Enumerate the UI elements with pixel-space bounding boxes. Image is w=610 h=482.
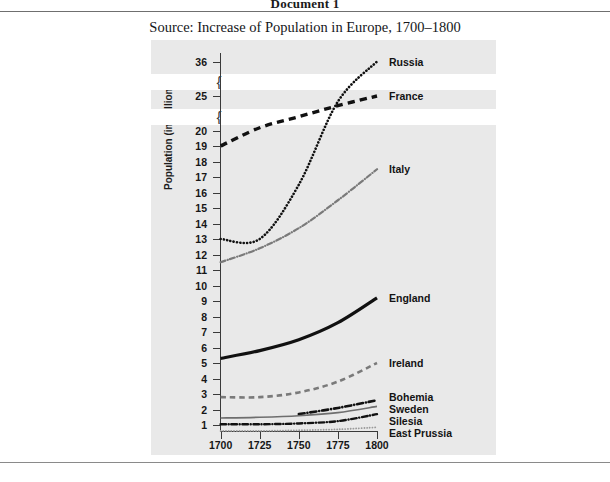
series-label-east-prussia: East Prussia	[389, 428, 452, 439]
series-line-sweden	[221, 406, 377, 418]
chart-lines	[151, 40, 496, 455]
series-line-england	[221, 298, 377, 358]
series-label-ireland: Ireland	[389, 358, 423, 369]
series-label-silesia: Silesia	[389, 416, 422, 427]
series-label-italy: Italy	[389, 164, 410, 175]
series-label-russia: Russia	[389, 57, 423, 68]
bottom-divider	[0, 462, 610, 463]
series-line-ireland	[221, 363, 377, 397]
series-label-sweden: Sweden	[389, 404, 429, 415]
series-line-east-prussia	[221, 427, 377, 431]
series-label-bohemia: Bohemia	[389, 392, 433, 403]
source-caption: Source: Increase of Population in Europe…	[0, 19, 610, 36]
chart-figure: Population (in millions) {{ 362520191817…	[151, 40, 496, 455]
series-line-russia	[221, 62, 377, 244]
series-label-england: England	[389, 293, 430, 304]
document-heading: Document 1	[0, 0, 610, 8]
series-label-france: France	[389, 91, 423, 102]
top-divider	[0, 11, 610, 12]
series-line-france	[221, 96, 377, 146]
series-line-italy	[221, 169, 377, 262]
